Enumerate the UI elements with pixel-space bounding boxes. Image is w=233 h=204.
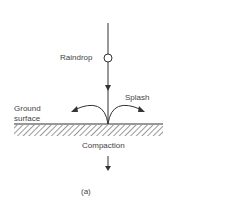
ground-hatching	[14, 125, 163, 136]
ground-label-line2: surface	[14, 114, 40, 123]
fall-arrowhead-icon	[105, 85, 111, 91]
splash-arrow-right-icon	[138, 106, 145, 112]
compaction-arrowhead-icon	[105, 166, 111, 171]
figure-caption: (a)	[81, 187, 91, 196]
splash-arrow-left-icon	[71, 106, 78, 112]
splash-arc-left	[74, 105, 108, 124]
raindrop-label: Raindrop	[60, 53, 92, 62]
raindrop-icon	[104, 54, 112, 62]
compaction-label: Compaction	[82, 141, 125, 150]
raindrop-impact-diagram	[0, 0, 233, 204]
ground-label-line1: Ground	[14, 104, 41, 113]
splash-label: Splash	[125, 93, 149, 102]
splash-arc-right	[108, 105, 142, 124]
